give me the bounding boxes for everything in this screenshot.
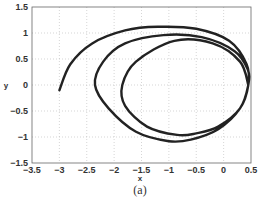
phase-plot: −3.5−3−2.5−2−1.5−1−0.500.5 1.510.50−0.5−… (0, 0, 268, 198)
y-tick-label: 1 (23, 28, 28, 38)
y-tick-label: 1.5 (15, 2, 28, 12)
x-tick-label: −3 (54, 165, 64, 175)
y-axis-label: y (4, 81, 9, 90)
x-tick-label: 0 (221, 165, 226, 175)
grid-lines (32, 7, 251, 163)
figure-caption: (a) (133, 183, 146, 197)
x-tick-label: −2.5 (78, 165, 96, 175)
x-axis-label: x (138, 174, 143, 183)
y-tick-label: −1 (18, 132, 28, 142)
y-tick-label: −0.5 (10, 106, 28, 116)
x-tick-label: 0.5 (245, 165, 258, 175)
y-tick-label: 0.5 (15, 54, 28, 64)
x-tick-label: −1 (164, 165, 174, 175)
x-tick-label: −2 (109, 165, 119, 175)
y-tick-label: −1.5 (10, 158, 28, 168)
y-tick-label: 0 (23, 80, 28, 90)
trajectory-curve (59, 27, 249, 142)
x-tick-label: −0.5 (187, 165, 205, 175)
y-tick-labels: 1.510.50−0.5−1−1.5 (10, 2, 28, 168)
